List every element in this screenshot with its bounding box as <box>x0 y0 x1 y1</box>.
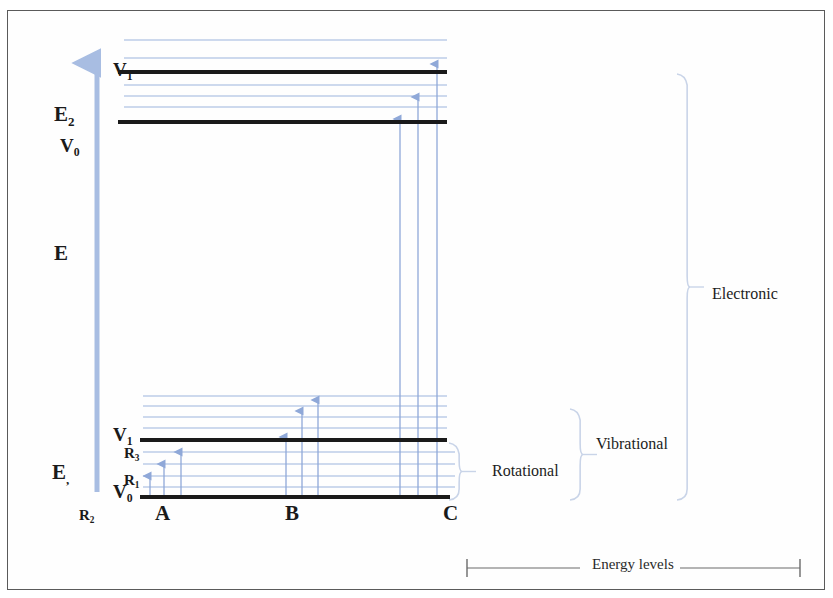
brace-label-electronic: Electronic <box>712 286 778 302</box>
transition-arrows-group <box>150 64 437 497</box>
brace-vibrational <box>570 409 583 500</box>
brace-label-rotational: Rotational <box>492 463 559 479</box>
level-label-R3: R3 <box>124 446 140 464</box>
energy-levels-label: Energy levels <box>592 557 674 572</box>
axis-state-label-E1: E, <box>52 462 69 486</box>
axis-state-label-R2: R2 <box>79 508 95 526</box>
brace-electronic <box>677 74 690 500</box>
column-label-A: A <box>155 503 170 524</box>
energy-diagram-canvas <box>0 0 833 598</box>
figure-page: E2V0EE,R2V1V1R3R1V0ABCRotationalVibratio… <box>0 0 833 598</box>
axis-state-label-V0u: V0 <box>60 136 80 159</box>
axis-state-label-E2: E2 <box>54 104 75 128</box>
level-label-V0-lower: V0 <box>113 482 133 505</box>
brace-label-vibrational: Vibrational <box>596 436 668 452</box>
column-label-B: B <box>285 503 299 524</box>
level-label-V1-upper: V1 <box>113 60 133 83</box>
column-label-C: C <box>443 503 458 524</box>
gridlines-group <box>124 40 455 487</box>
axis-state-label-E: E <box>54 243 68 264</box>
